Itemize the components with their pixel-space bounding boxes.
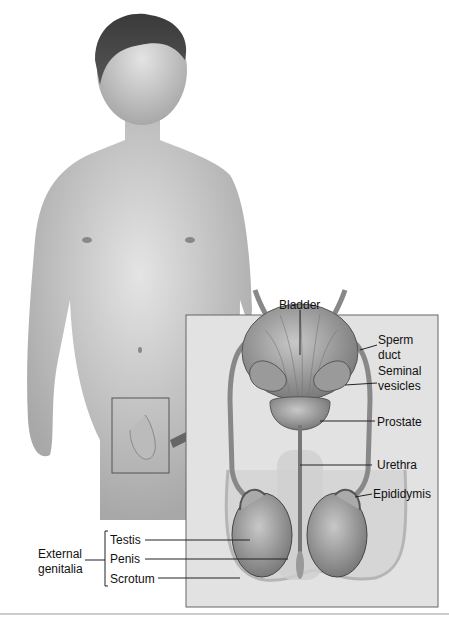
label-external-genitalia-2: genitalia [38, 562, 83, 576]
label-external-genitalia-1: External [38, 547, 82, 561]
label-sperm-duct-2: duct [378, 348, 401, 362]
label-sperm-duct-1: Sperm [378, 333, 413, 347]
label-scrotum: Scrotum [110, 572, 155, 586]
label-penis: Penis [110, 552, 140, 566]
label-seminal-vesicles-1: Seminal [378, 364, 421, 378]
label-testis: Testis [110, 533, 141, 547]
label-seminal-vesicles-2: vesicles [378, 379, 421, 393]
anatomy-illustration [0, 0, 449, 620]
label-bladder: Bladder [279, 298, 320, 312]
label-epididymis: Epididymis [373, 487, 431, 501]
label-urethra: Urethra [377, 458, 417, 472]
label-prostate: Prostate [377, 415, 422, 429]
